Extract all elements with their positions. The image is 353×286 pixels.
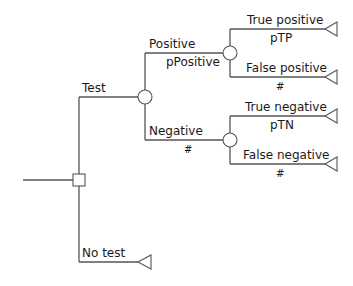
no-test-terminal-icon	[138, 255, 151, 269]
false-positive-label: False positive	[246, 61, 327, 75]
false-positive-prob-label: #	[276, 81, 284, 92]
true-positive-terminal-icon	[325, 22, 337, 36]
decision-tree-diagram: Test Positive pPositive True positive pT…	[0, 0, 353, 286]
false-negative-prob-label: #	[276, 168, 284, 179]
test-chance-node	[138, 90, 152, 104]
true-negative-terminal-icon	[325, 109, 337, 123]
test-label: Test	[81, 81, 106, 95]
no-test-label: No test	[82, 246, 125, 260]
positive-label: Positive	[149, 37, 195, 51]
false-negative-label: False negative	[243, 148, 329, 162]
negative-prob-label: #	[184, 144, 192, 155]
true-positive-label: True positive	[246, 13, 323, 27]
true-negative-label: True negative	[244, 100, 327, 114]
true-negative-prob-label: pTN	[270, 118, 294, 132]
positive-chance-node	[223, 46, 237, 60]
true-positive-prob-label: pTP	[270, 31, 292, 45]
negative-chance-node	[223, 133, 237, 147]
decision-node-square	[73, 174, 85, 186]
negative-label: Negative	[149, 124, 203, 138]
positive-prob-label: pPositive	[166, 55, 220, 69]
